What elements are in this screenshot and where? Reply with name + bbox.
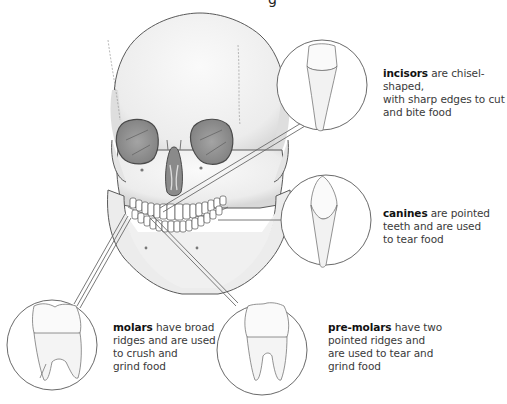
callout-line: pointed ridges and	[328, 334, 425, 346]
callout-line: ridges and are used	[113, 334, 216, 346]
callout-term-canines: canines	[383, 207, 428, 219]
callout-line: have two	[395, 321, 442, 333]
incisor-magnifier	[277, 40, 367, 131]
callout-canines: canines are pointed teeth and are used t…	[383, 207, 507, 246]
callout-line: and bite food	[383, 106, 452, 118]
pre-molar-tooth	[245, 303, 289, 340]
callout-term-molars: molars	[113, 321, 153, 333]
callout-line: with sharp edges to cut	[383, 93, 505, 105]
callout-incisors: incisors are chisel-shaped, with sharp e…	[383, 67, 507, 119]
callout-line: have broad	[156, 321, 214, 333]
nasal-cavity	[166, 140, 183, 196]
incisor-tooth	[307, 44, 337, 71]
molar-magnifier	[7, 300, 97, 390]
callout-molars: molars have broad ridges and are used to…	[113, 321, 223, 373]
callout-line: are used to tear and	[328, 347, 433, 359]
callout-line: grind food	[328, 360, 381, 372]
callout-line: to tear food	[383, 233, 444, 245]
molar-tooth	[33, 304, 81, 335]
leader-line-molars	[80, 218, 131, 308]
callout-line: to crush and	[113, 347, 178, 359]
callout-line: grind food	[113, 360, 166, 372]
callout-line: teeth and are used	[383, 220, 481, 232]
left-orbit	[116, 119, 158, 163]
pre-molar-magnifier	[217, 303, 307, 395]
callout-line: are pointed	[431, 207, 490, 219]
callout-term-pre-molars: pre-molars	[328, 321, 391, 333]
canine-magnifier	[281, 175, 371, 267]
callout-pre-molars: pre-molars have two pointed ridges and a…	[328, 321, 468, 373]
callout-term-incisors: incisors	[383, 67, 428, 79]
